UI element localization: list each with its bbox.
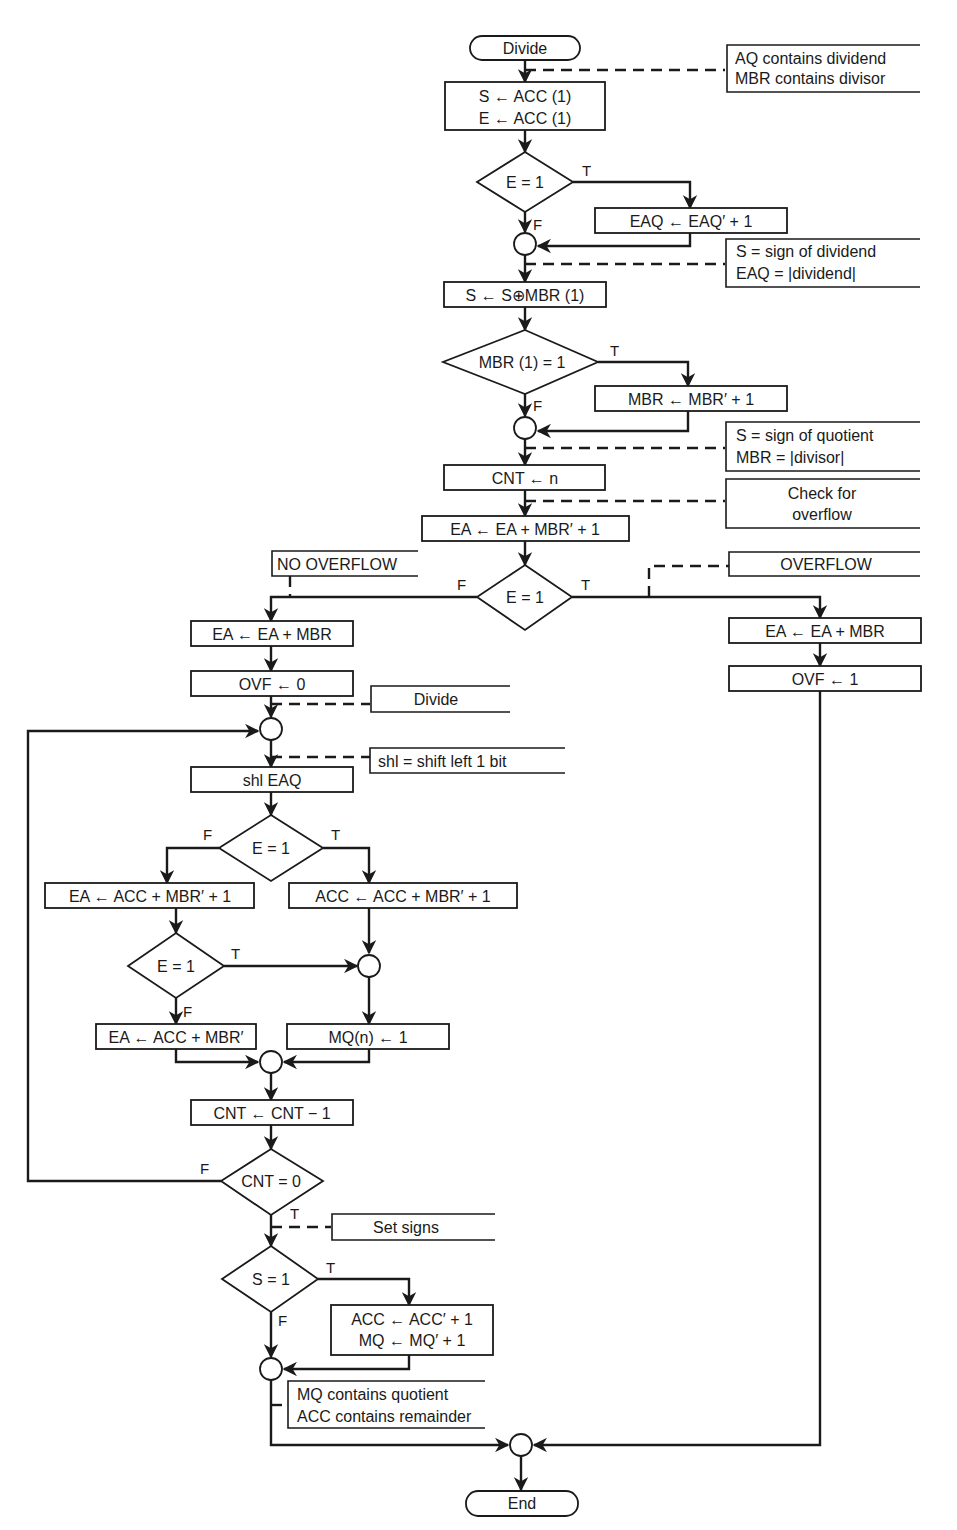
decision-sign: S = 1 [222, 1246, 318, 1312]
svg-text:MBR ← MBR′ + 1: MBR ← MBR′ + 1 [628, 391, 754, 408]
junction [514, 233, 536, 255]
svg-text:S ← ACC (1): S ← ACC (1) [479, 88, 571, 105]
svg-text:AQ contains dividend: AQ contains dividend [735, 50, 886, 67]
step-init: S ← ACC (1) E ← ACC (1) [445, 82, 605, 130]
annotation-result: MQ contains quotient ACC contains remain… [288, 1381, 485, 1428]
decision-shift-e: E = 1 [219, 815, 323, 881]
branch-false-label: F [533, 397, 542, 414]
svg-text:EA ← ACC + MBR′ + 1: EA ← ACC + MBR′ + 1 [69, 888, 231, 905]
svg-text:Set signs: Set signs [373, 1219, 439, 1236]
annotation-dividend-sign: S = sign of dividend EAQ = |dividend| [726, 239, 920, 287]
decision-e-sign: E = 1 [477, 152, 573, 212]
step-mbr-complement: MBR ← MBR′ + 1 [595, 386, 787, 411]
step-counter-decrement: CNT ← CNT − 1 [191, 1100, 353, 1125]
svg-text:End: End [508, 1495, 536, 1512]
annotation-no-overflow: NO OVERFLOW [272, 551, 418, 576]
svg-text:EA ← EA + MBR: EA ← EA + MBR [212, 626, 332, 643]
decision-counter-zero: CNT = 0 [221, 1149, 323, 1215]
svg-text:S = sign of quotient: S = sign of quotient [736, 427, 874, 444]
annotation-shift-left: shl = shift left 1 bit [370, 748, 565, 773]
loop-junction [260, 718, 282, 740]
svg-text:shl EAQ: shl EAQ [243, 772, 302, 789]
step-sign-xor: S ← S⊕MBR (1) [444, 282, 606, 307]
svg-text:MQ ← MQ′ + 1: MQ ← MQ′ + 1 [359, 1332, 466, 1349]
svg-text:ACC contains remainder: ACC contains remainder [297, 1408, 472, 1425]
flowchart: Divide AQ contains dividend MBR contains… [0, 0, 957, 1530]
branch-false-label: F [183, 1003, 192, 1020]
svg-text:EA ← EA + MBR: EA ← EA + MBR [765, 623, 885, 640]
svg-text:S = sign of dividend: S = sign of dividend [736, 243, 876, 260]
svg-text:Divide: Divide [503, 40, 548, 57]
step-shift-left: shl EAQ [191, 767, 353, 792]
step-acc-subtract: ACC ← ACC + MBR′ + 1 [289, 883, 517, 908]
annotation-quotient-sign: S = sign of quotient MBR = |divisor| [726, 422, 920, 471]
branch-true-label: T [231, 945, 240, 962]
step-eaq-complement: EAQ ← EAQ′ + 1 [595, 208, 787, 233]
step-counter-init: CNT ← n [444, 465, 605, 490]
svg-text:EA ← EA + MBR′ + 1: EA ← EA + MBR′ + 1 [450, 521, 600, 538]
svg-text:E ← ACC (1): E ← ACC (1) [479, 110, 571, 127]
svg-text:S = 1: S = 1 [252, 1271, 290, 1288]
junction [260, 1051, 282, 1073]
step-ea-acc-subtract: EA ← ACC + MBR′ + 1 [45, 883, 254, 908]
branch-true-label: T [582, 162, 591, 179]
svg-text:EAQ = |dividend|: EAQ = |dividend| [736, 265, 856, 282]
annotation-inputs: AQ contains dividend MBR contains diviso… [727, 45, 920, 92]
annotation-overflow: OVERFLOW [729, 552, 920, 576]
svg-text:Divide: Divide [414, 691, 459, 708]
decision-inner-e: E = 1 [128, 933, 224, 998]
svg-text:E = 1: E = 1 [506, 174, 544, 191]
junction [358, 955, 380, 977]
branch-true-label: T [290, 1205, 299, 1222]
svg-text:MQ contains quotient: MQ contains quotient [297, 1386, 449, 1403]
branch-false-label: F [203, 826, 212, 843]
step-restore-left: EA ← EA + MBR [191, 621, 353, 646]
svg-text:CNT ← n: CNT ← n [492, 470, 558, 487]
end-junction [510, 1434, 532, 1456]
start-terminal: Divide [470, 36, 580, 60]
step-ovf-set: OVF ← 1 [729, 666, 921, 691]
annotation-set-signs: Set signs [332, 1214, 495, 1240]
svg-text:Check for: Check for [788, 485, 857, 502]
svg-text:EAQ ← EAQ′ + 1: EAQ ← EAQ′ + 1 [630, 213, 753, 230]
branch-true-label: T [581, 576, 590, 593]
step-mq-set: MQ(n) ← 1 [287, 1024, 449, 1049]
svg-text:OVF ← 0: OVF ← 0 [239, 676, 306, 693]
svg-text:ACC ← ACC′ + 1: ACC ← ACC′ + 1 [351, 1311, 473, 1328]
svg-text:EA ← ACC + MBR′: EA ← ACC + MBR′ [108, 1029, 243, 1046]
svg-text:NO OVERFLOW: NO OVERFLOW [277, 556, 398, 573]
junction [260, 1358, 282, 1380]
svg-text:S ← S⊕MBR (1): S ← S⊕MBR (1) [466, 287, 585, 304]
branch-true-label: T [610, 342, 619, 359]
svg-text:MQ(n) ← 1: MQ(n) ← 1 [328, 1029, 407, 1046]
decision-overflow: E = 1 [477, 565, 572, 630]
end-terminal: End [466, 1491, 578, 1516]
svg-text:E = 1: E = 1 [252, 840, 290, 857]
svg-text:overflow: overflow [792, 506, 852, 523]
branch-true-label: T [326, 1259, 335, 1276]
svg-text:ACC ← ACC + MBR′ + 1: ACC ← ACC + MBR′ + 1 [315, 888, 491, 905]
svg-text:CNT = 0: CNT = 0 [241, 1173, 301, 1190]
branch-true-label: T [331, 826, 340, 843]
svg-text:MBR contains divisor: MBR contains divisor [735, 70, 886, 87]
junction [514, 417, 536, 439]
svg-text:E = 1: E = 1 [157, 958, 195, 975]
step-negate: ACC ← ACC′ + 1 MQ ← MQ′ + 1 [331, 1305, 493, 1355]
svg-text:MBR = |divisor|: MBR = |divisor| [736, 449, 844, 466]
svg-text:MBR (1) = 1: MBR (1) = 1 [479, 354, 566, 371]
step-restore-right: EA ← EA + MBR [729, 618, 921, 643]
svg-text:OVERFLOW: OVERFLOW [780, 556, 872, 573]
branch-false-label: F [533, 216, 542, 233]
annotation-divide: Divide [371, 686, 510, 712]
svg-text:shl = shift left 1 bit: shl = shift left 1 bit [378, 753, 507, 770]
decision-mbr-sign: MBR (1) = 1 [443, 330, 598, 394]
step-ea-acc: EA ← ACC + MBR′ [96, 1024, 256, 1049]
annotation-check-overflow: Check for overflow [726, 479, 920, 528]
svg-text:OVF ← 1: OVF ← 1 [792, 671, 859, 688]
branch-false-label: F [278, 1312, 287, 1329]
step-trial-subtract: EA ← EA + MBR′ + 1 [422, 516, 629, 541]
svg-text:E = 1: E = 1 [506, 589, 544, 606]
branch-false-label: F [457, 576, 466, 593]
svg-text:CNT ← CNT − 1: CNT ← CNT − 1 [213, 1105, 330, 1122]
step-ovf-clear: OVF ← 0 [191, 671, 353, 696]
